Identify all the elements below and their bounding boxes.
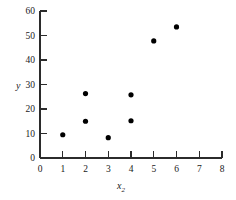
y-axis-tick-group: 0102030405060 xyxy=(26,6,48,163)
x-axis-tick-label: 5 xyxy=(151,164,156,174)
data-point xyxy=(151,38,156,43)
x-axis-tick-label: 1 xyxy=(60,164,65,174)
y-axis-tick-label: 0 xyxy=(30,153,35,163)
y-axis-tick-label: 60 xyxy=(26,6,36,16)
y-axis-tick-label: 20 xyxy=(26,104,36,114)
x-axis-tick-label: 2 xyxy=(83,164,88,174)
data-point xyxy=(106,135,111,140)
x-axis-tick-label: 0 xyxy=(38,164,43,174)
y-axis-title: y xyxy=(15,80,21,91)
x-axis-tick-label: 6 xyxy=(174,164,179,174)
plot-canvas: 0102030405060 012345678 y x2 xyxy=(0,0,236,200)
data-point xyxy=(128,118,133,123)
x-axis-tick-label: 7 xyxy=(197,164,202,174)
x-axis-tick-label: 8 xyxy=(220,164,225,174)
scatter-plot-figure: 0102030405060 012345678 y x2 xyxy=(0,0,236,200)
x-axis-title: x2 xyxy=(116,180,125,194)
y-axis-tick-label: 10 xyxy=(26,129,36,139)
data-point xyxy=(128,92,133,97)
y-axis-tick-label: 50 xyxy=(26,31,36,41)
x-axis-tick-group: 012345678 xyxy=(38,151,225,174)
data-point xyxy=(174,24,179,29)
data-point-group xyxy=(60,24,179,140)
y-axis-tick-label: 40 xyxy=(26,55,36,65)
y-axis-tick-label: 30 xyxy=(26,80,36,90)
data-point xyxy=(83,91,88,96)
data-point xyxy=(83,119,88,124)
x-axis-tick-label: 3 xyxy=(106,164,111,174)
x-axis-tick-label: 4 xyxy=(129,164,134,174)
data-point xyxy=(60,132,65,137)
x-axis-title-subscript: 2 xyxy=(121,186,125,194)
